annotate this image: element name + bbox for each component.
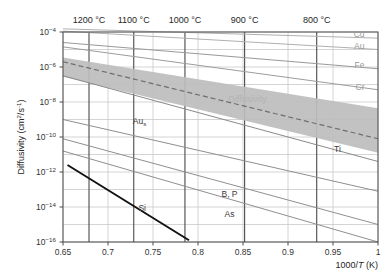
- annotation-b-p: B, P: [221, 189, 237, 199]
- svg-text:Diffusivity (cm2/s-1): Diffusivity (cm2/s-1): [15, 100, 26, 175]
- x-tick-label: 0.8: [192, 247, 204, 257]
- annotation-au: Au: [354, 41, 365, 51]
- temperature-tick-label: 1200 °C: [73, 15, 106, 25]
- annotation-ti: Ti: [334, 144, 341, 154]
- x-tick-label: 0.75: [145, 247, 162, 257]
- annotation-as: As: [225, 209, 235, 219]
- y-axis-title-base: Diffusivity (cm: [16, 119, 26, 175]
- annotation-diffusivity: Diffusivity: [228, 94, 267, 104]
- y-axis-title-tail: ): [16, 100, 26, 103]
- annotation-fe: Fe: [355, 60, 365, 70]
- annotation-cr: Cr: [356, 82, 365, 92]
- temperature-tick-label: 1100 °C: [118, 15, 150, 25]
- x-tick-label: 0.85: [235, 247, 252, 257]
- annotation-cu: Cu: [354, 29, 365, 39]
- annotation-si: Si: [138, 203, 146, 213]
- x-tick-label: 0.7: [102, 247, 114, 257]
- x-tick-label: 0.65: [55, 247, 72, 257]
- chart-canvas: 1200 °C1100 °C1000 °C900 °C800 °C Diffus…: [0, 0, 392, 278]
- x-tick-label: 0.9: [282, 247, 294, 257]
- y-axis-title: Diffusivity (cm2/s-1): [15, 100, 26, 175]
- temperature-tick-label: 800 °C: [303, 15, 331, 25]
- temperature-tick-label: 900 °C: [231, 15, 259, 25]
- temperature-tick-label: 1000 °C: [169, 15, 202, 25]
- x-tick-label: 1: [376, 247, 381, 257]
- diffusivity-chart: 1200 °C1100 °C1000 °C900 °C800 °C Diffus…: [0, 0, 392, 278]
- x-axis-title: 1000/T (K): [335, 260, 378, 270]
- x-tick-label: 0.95: [325, 247, 342, 257]
